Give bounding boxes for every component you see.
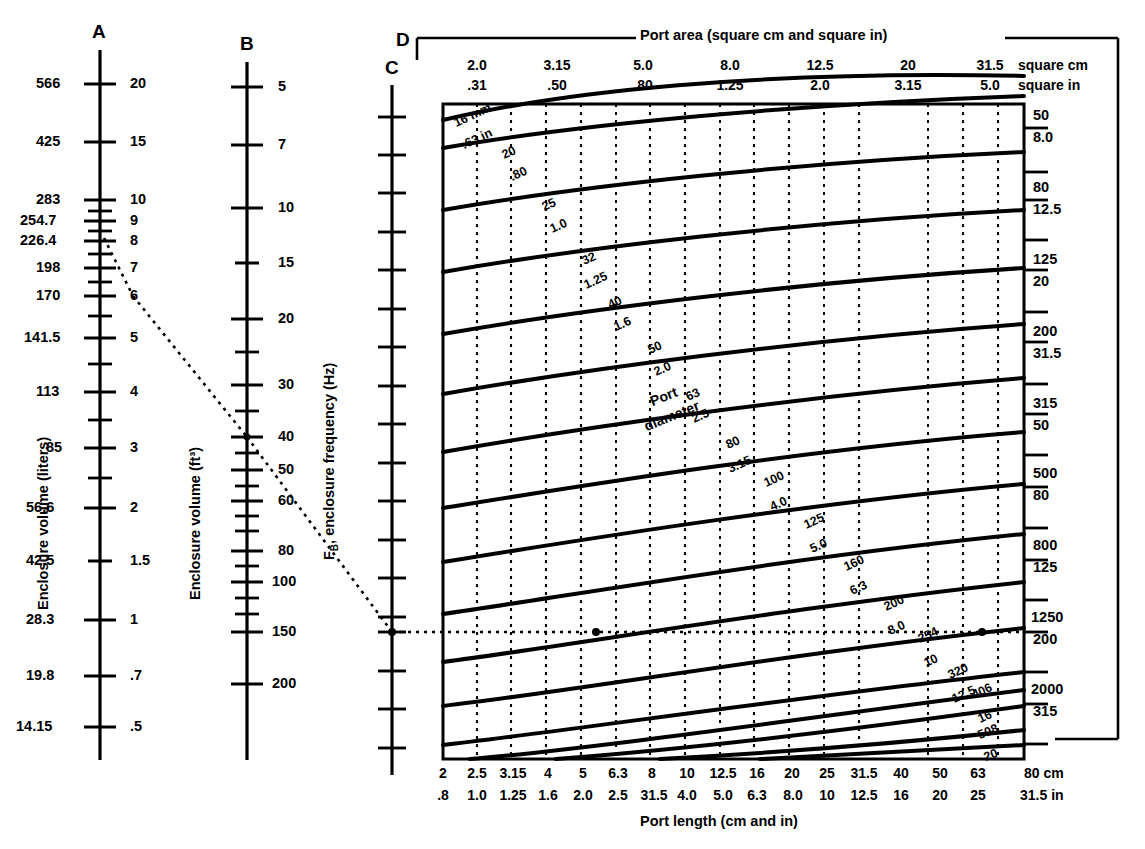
top-unit-sqin: square in bbox=[1018, 78, 1080, 92]
bottom-in-15: 25 bbox=[956, 788, 1000, 802]
scale-b-value-10: 100 bbox=[272, 574, 296, 589]
right-sqin-1: 12.5 bbox=[1033, 202, 1061, 217]
scale-b-value-9: 80 bbox=[278, 543, 294, 558]
scale-b-minor-ticks bbox=[235, 352, 259, 614]
bottom-cm-13: 40 bbox=[879, 766, 923, 780]
right-sqcm-3: 200 bbox=[1033, 324, 1057, 339]
right-sqin-5: 80 bbox=[1033, 488, 1049, 503]
right-sqin-2: 20 bbox=[1033, 274, 1049, 289]
x-axis-title: Port length (cm and in) bbox=[640, 814, 798, 829]
scale-a-title-liters: Enclosure volume (liters) bbox=[36, 437, 51, 610]
scale-a-liters-8: 113 bbox=[36, 384, 59, 399]
scale-b-value-2: 10 bbox=[278, 200, 294, 215]
scale-a-cuft-7: 5 bbox=[130, 330, 138, 345]
scale-b-value-6: 40 bbox=[278, 429, 294, 444]
scale-b-value-11: 150 bbox=[272, 624, 296, 639]
bottom-in-16: 31.5 in bbox=[1020, 788, 1064, 802]
scale-a-cuft-5: 7 bbox=[130, 260, 138, 275]
right-sqcm-0: 50 bbox=[1033, 108, 1049, 123]
scale-a-liters-1: 425 bbox=[36, 134, 60, 149]
right-sqin-6: 125 bbox=[1033, 560, 1057, 575]
scale-b-title-f: F bbox=[321, 551, 337, 560]
nomograph-figure: A 566 425 283 254.7 226.4 198 170 141.5 … bbox=[0, 0, 1145, 849]
scale-a-cuft-4: 8 bbox=[130, 233, 138, 248]
tick-graphics bbox=[0, 0, 1145, 849]
scale-c-ticks bbox=[378, 117, 406, 748]
top-sqin-2: .80 bbox=[618, 78, 668, 92]
top-sqin-3: 1.25 bbox=[705, 78, 755, 92]
scale-a-cuft-8: 4 bbox=[130, 384, 138, 399]
scale-b-value-12: 200 bbox=[272, 676, 296, 691]
scale-b-value-4: 20 bbox=[278, 311, 294, 326]
right-sqin-3: 31.5 bbox=[1033, 346, 1061, 361]
panel-d-letter: D bbox=[396, 30, 410, 49]
scale-a-cuft-12: 1 bbox=[130, 612, 138, 627]
scale-a-cuft-13: .7 bbox=[130, 668, 142, 683]
scale-a-liters-14: 14.15 bbox=[16, 719, 52, 734]
scale-a-cuft-3: 9 bbox=[130, 213, 138, 228]
top-sqcm-6: 31.5 bbox=[965, 58, 1015, 72]
scale-a-liters-4: 226.4 bbox=[20, 233, 56, 248]
scale-a-cuft-14: .5 bbox=[130, 719, 142, 734]
right-sqin-7: 200 bbox=[1033, 632, 1057, 647]
top-sqcm-0: 2.0 bbox=[452, 58, 502, 72]
scale-a-cuft-11: 1.5 bbox=[130, 553, 150, 568]
top-sqin-4: 2.0 bbox=[795, 78, 845, 92]
scale-a-liters-12: 28.3 bbox=[26, 612, 54, 627]
scale-a-title-cuft: Enclosure volume (ft³) bbox=[188, 447, 203, 600]
scale-a-liters-13: 19.8 bbox=[26, 668, 54, 683]
right-sqcm-5: 500 bbox=[1033, 466, 1057, 481]
scale-b-value-1: 7 bbox=[278, 137, 286, 152]
top-sqin-5: 3.15 bbox=[883, 78, 933, 92]
right-sqcm-8: 2000 bbox=[1031, 682, 1063, 697]
scale-b-major-ticks bbox=[231, 87, 263, 684]
scale-a-liters-3: 254.7 bbox=[20, 213, 56, 228]
scale-b-value-8: 60 bbox=[278, 493, 294, 508]
chart-title: Port area (square cm and square in) bbox=[640, 28, 887, 43]
scale-b-value-3: 15 bbox=[278, 255, 294, 270]
right-sqin-4: 50 bbox=[1033, 418, 1049, 433]
scale-a-major-ticks bbox=[84, 84, 116, 727]
bottom-in-13: 16 bbox=[879, 788, 923, 802]
scale-b-title-sub: B bbox=[329, 544, 340, 551]
top-sqin-0: .31 bbox=[452, 78, 502, 92]
scale-b-value-5: 30 bbox=[278, 377, 294, 392]
scale-a-cuft-0: 20 bbox=[130, 76, 146, 91]
scale-a-cuft-1: 15 bbox=[130, 134, 146, 149]
scale-a-liters-6: 170 bbox=[36, 288, 60, 303]
top-sqcm-4: 12.5 bbox=[795, 58, 845, 72]
right-sqin-0: 8.0 bbox=[1033, 130, 1053, 145]
scale-a-liters-2: 283 bbox=[36, 192, 60, 207]
scale-a-cuft-6: 6 bbox=[130, 288, 138, 303]
right-sqcm-1: 80 bbox=[1033, 180, 1049, 195]
top-sqcm-3: 8.0 bbox=[705, 58, 755, 72]
scale-c-letter: C bbox=[385, 58, 399, 77]
scale-a-cuft-10: 2 bbox=[130, 500, 138, 515]
scale-b-value-7: 50 bbox=[278, 462, 294, 477]
right-sqcm-2: 125 bbox=[1033, 252, 1057, 267]
scale-a-letter: A bbox=[92, 22, 106, 41]
right-sqcm-7: 1250 bbox=[1031, 610, 1063, 625]
bottom-cm-16: 80 cm bbox=[1024, 766, 1064, 780]
scale-b-value-0: 5 bbox=[278, 79, 286, 94]
top-sqcm-1: 3.15 bbox=[532, 58, 582, 72]
right-sqcm-4: 315 bbox=[1033, 396, 1057, 411]
right-sqin-8: 315 bbox=[1033, 704, 1057, 719]
scale-a-liters-5: 198 bbox=[36, 260, 60, 275]
scale-a-cuft-2: 10 bbox=[130, 192, 146, 207]
top-sqin-1: .50 bbox=[532, 78, 582, 92]
scale-a-liters-7: 141.5 bbox=[24, 330, 60, 345]
scale-b-title: FB, enclosure frequency (Hz) bbox=[322, 363, 340, 560]
top-unit-sqcm: square cm bbox=[1018, 58, 1088, 72]
bottom-cm-15: 63 bbox=[956, 766, 1000, 780]
right-sqcm-6: 800 bbox=[1033, 538, 1057, 553]
top-sqin-6: 5.0 bbox=[965, 78, 1015, 92]
scale-a-cuft-9: 3 bbox=[130, 440, 138, 455]
scale-a-minor-ticks bbox=[88, 211, 112, 478]
top-sqcm-5: 20 bbox=[883, 58, 933, 72]
panel-d-right-ticks bbox=[1024, 128, 1048, 744]
top-sqcm-2: 5.0 bbox=[618, 58, 668, 72]
scale-b-title-rest: , enclosure frequency (Hz) bbox=[321, 363, 337, 544]
scale-b-letter: B bbox=[240, 34, 254, 53]
scale-a-liters-0: 566 bbox=[36, 76, 60, 91]
